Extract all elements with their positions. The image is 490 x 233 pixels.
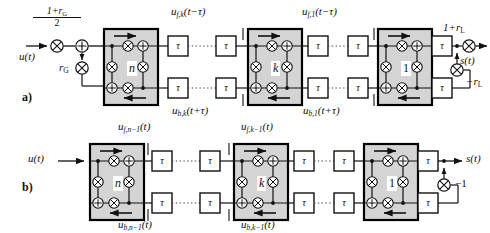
stage-k-top-multiplier-b: [253, 156, 263, 166]
stage-index-n-a: n: [127, 61, 137, 76]
delay-label-tau: τ: [418, 193, 438, 213]
gain-input-denominator-a: 2: [33, 18, 81, 29]
delay-label-tau: τ: [418, 151, 438, 171]
stage-1-top-multiplier-b: [383, 156, 393, 166]
stage-1-right-multiplier-b: [398, 177, 408, 187]
stage-n-bottom-multiplier-b: [109, 198, 119, 208]
reflection-gain-label-a: rG: [59, 62, 69, 75]
signal-label-ub-k1-b: ub,k−1(t): [241, 219, 275, 232]
delay-label-tau: τ: [334, 151, 354, 171]
stage-k-bottom-adder-b: [237, 198, 247, 208]
stage-n-top-adder-b: [124, 156, 134, 166]
delay-label-tau: τ: [294, 151, 314, 171]
delay-label-tau: τ: [432, 36, 452, 56]
signal-label-uf-k-a: uf,k(t−τ): [171, 6, 206, 19]
delay-label-tau: τ: [152, 193, 172, 213]
stage-n-right-multiplier-a: [138, 62, 148, 72]
input-gain-fraction-a: 1+rG 2: [33, 6, 81, 29]
delay-label-tau: τ: [168, 36, 188, 56]
panel-b-identifier: b): [22, 180, 33, 195]
stage-n-right-multiplier-b: [124, 177, 134, 187]
delay-label-tau: τ: [432, 78, 452, 98]
stage-k-top-adder-a: [282, 41, 292, 51]
load-reflection-label-a: −rL: [466, 76, 482, 89]
stage-1-left-multiplier-a: [381, 62, 391, 72]
figure-canvas: 1+rG 2 u(t) rG a) n k 1 uf,k(t−τ) ub,k(t…: [0, 0, 490, 233]
stage-1-right-multiplier-a: [412, 62, 422, 72]
stage-k-right-multiplier-a: [282, 62, 292, 72]
delay-label-tau: τ: [348, 36, 368, 56]
output-inverter-label-b: −1: [455, 178, 467, 189]
gain-input-numerator-a: 1+r: [47, 5, 63, 16]
input-signal-label-b: u(t): [28, 153, 44, 164]
reflection-gain-multiplier-a: [76, 62, 88, 74]
input-adder-a: [76, 40, 88, 52]
stage-index-k-b: k: [257, 176, 266, 191]
delay-label-tau: τ: [200, 193, 220, 213]
signal-label-uf-n1-b: uf,n−1(t): [118, 121, 150, 134]
panel-a-identifier: a): [22, 90, 32, 105]
delay-label-tau: τ: [168, 78, 188, 98]
delay-label-tau: τ: [308, 36, 328, 56]
delay-label-tau: τ: [348, 78, 368, 98]
signal-label-ub-1-a: ub,1(t+τ): [303, 105, 340, 118]
delay-label-tau: τ: [294, 193, 314, 213]
stage-1-bottom-multiplier-a: [397, 83, 407, 93]
delay-label-tau: τ: [200, 151, 220, 171]
delay-label-tau: τ: [216, 78, 236, 98]
signal-label-uf-1-a: uf,1(t−τ): [302, 6, 337, 19]
stage-n-top-multiplier-a: [123, 41, 133, 51]
stage-n-top-multiplier-b: [109, 156, 119, 166]
stage-1-bottom-multiplier-b: [383, 198, 393, 208]
stage-k-left-multiplier-a: [251, 62, 261, 72]
output-signal-label-b: s(t): [466, 153, 481, 164]
input-signal-label-a: u(t): [19, 51, 35, 62]
stage-1-bottom-adder-a: [381, 83, 391, 93]
delay-label-tau: τ: [308, 78, 328, 98]
output-gain-label-a: 1+rL: [443, 22, 465, 35]
stage-k-bottom-multiplier-b: [253, 198, 263, 208]
stage-1-top-adder-b: [398, 156, 408, 166]
signal-label-ub-k-a: ub,k(t+τ): [172, 105, 208, 118]
delay-label-tau: τ: [152, 151, 172, 171]
delay-label-tau: τ: [216, 36, 236, 56]
stage-n-bottom-multiplier-a: [123, 83, 133, 93]
stage-1-top-multiplier-a: [397, 41, 407, 51]
output-gain-multiplier-a: [463, 40, 475, 52]
gain-input-numerator-subscript-a: G: [62, 10, 67, 17]
output-signal-label-a: s(t): [460, 55, 475, 66]
gain-input-multiplier-a: [51, 40, 63, 52]
stage-1-left-multiplier-b: [367, 177, 377, 187]
stage-1-bottom-adder-b: [367, 198, 377, 208]
panel-a-graphics: [26, 28, 487, 106]
stage-index-n-b: n: [113, 176, 123, 191]
stage-n-left-multiplier-a: [107, 62, 117, 72]
stage-n-bottom-adder-a: [107, 83, 117, 93]
stage-n-left-multiplier-b: [93, 177, 103, 187]
output-inverter-multiplier-b: [438, 179, 450, 191]
stage-k-bottom-multiplier-a: [267, 83, 277, 93]
signal-label-uf-k1-b: uf,k−1(t): [241, 121, 273, 134]
stage-1-top-adder-a: [412, 41, 422, 51]
stage-index-k-a: k: [271, 61, 280, 76]
stage-n-top-adder-a: [138, 41, 148, 51]
stage-k-top-multiplier-a: [267, 41, 277, 51]
stage-k-top-adder-b: [268, 156, 278, 166]
stage-k-left-multiplier-b: [237, 177, 247, 187]
stage-k-right-multiplier-b: [268, 177, 278, 187]
stage-index-1-a: 1: [401, 61, 411, 76]
stage-index-1-b: 1: [387, 176, 397, 191]
delay-label-tau: τ: [334, 193, 354, 213]
stage-n-bottom-adder-b: [93, 198, 103, 208]
diagram-vector-layer: [0, 0, 490, 233]
stage-k-bottom-adder-a: [251, 83, 261, 93]
signal-label-ub-n1-b: ub,n−1(t): [118, 219, 152, 232]
